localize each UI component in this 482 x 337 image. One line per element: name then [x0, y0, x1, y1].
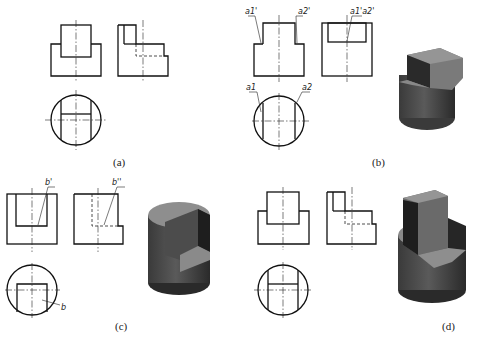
caption-a: (a) [113, 156, 126, 169]
figure-c: b' b'' b (c) [5, 178, 210, 333]
side-view-c: b'' [74, 178, 125, 252]
label-a1-prime: a1' [245, 7, 257, 16]
caption-c: (c) [115, 320, 128, 333]
figure-a: (a) [45, 20, 168, 169]
front-view-a [51, 20, 101, 82]
top-view-b: a1 a2 [246, 83, 312, 150]
figure-d: (d) [254, 187, 466, 333]
solid-model-d [398, 190, 466, 303]
top-view-a [45, 90, 107, 150]
solid-model-c [148, 202, 210, 295]
side-view-a [118, 20, 168, 82]
caption-b: (b) [372, 156, 385, 169]
front-view-d [258, 187, 309, 250]
label-b: b [61, 303, 66, 312]
label-a2-prime: a2' [298, 7, 310, 16]
label-a1: a1 [246, 83, 256, 92]
top-view-d [254, 262, 313, 318]
label-a1a2-prime: a1'a2' [350, 7, 374, 16]
front-view-c: b' [7, 178, 57, 252]
side-view-b: a1'a2' [322, 7, 374, 82]
side-view-d [327, 187, 376, 250]
front-view-b: a1' a2' [245, 7, 310, 82]
caption-d: (d) [442, 320, 455, 333]
label-b-double-prime: b'' [112, 178, 121, 187]
label-b-prime: b' [45, 178, 52, 187]
figure-b: a1' a2' a1'a2' a1 a2 [245, 7, 463, 169]
solid-model-b [399, 48, 463, 130]
top-view-c: b [5, 263, 66, 318]
label-a2: a2 [302, 83, 312, 92]
three-view-drawings: (a) a1' a2' a1'a2' a1 a2 [0, 0, 482, 337]
